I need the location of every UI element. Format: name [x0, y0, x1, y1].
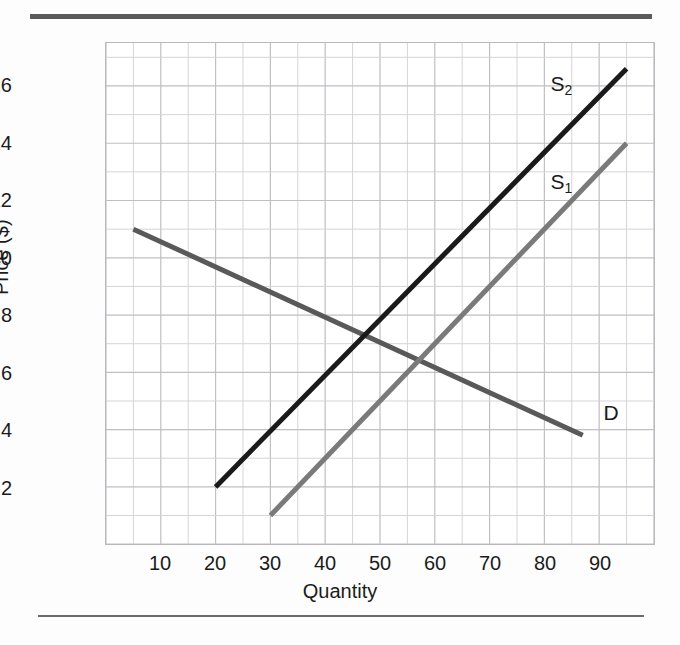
- series-label-subscript: 1: [565, 180, 573, 196]
- x-tick-label: 90: [589, 552, 611, 575]
- x-tick-label: 40: [314, 552, 336, 575]
- supply-demand-figure: 246810121416 102030405060708090 DS1S2 Pr…: [0, 0, 680, 645]
- y-tick-label: 4: [1, 419, 12, 442]
- data-layer: [106, 43, 654, 544]
- y-tick-label: 2: [1, 476, 12, 499]
- x-tick-label: 10: [149, 552, 171, 575]
- series-label-s2: S2: [551, 72, 573, 98]
- series-label-subscript: 2: [565, 82, 573, 98]
- x-tick-label: 60: [424, 552, 446, 575]
- x-tick-label: 30: [259, 552, 281, 575]
- top-horizontal-rule: [30, 14, 652, 19]
- y-tick-label: 6: [1, 361, 12, 384]
- x-tick-label: 20: [204, 552, 226, 575]
- x-tick-label: 80: [534, 552, 556, 575]
- series-label-d: D: [603, 401, 618, 425]
- x-tick-label: 50: [369, 552, 391, 575]
- series-label-s1: S1: [551, 170, 573, 196]
- y-tick-label: 16: [0, 74, 12, 97]
- y-tick-label: 8: [1, 304, 12, 327]
- series-line-s1: [270, 143, 626, 515]
- x-tick-label: 70: [479, 552, 501, 575]
- x-axis-title: Quantity: [0, 580, 680, 603]
- series-line-s2: [216, 69, 627, 487]
- y-tick-label: 14: [0, 131, 12, 154]
- y-tick-label: 12: [0, 189, 12, 212]
- plot-area: [105, 42, 655, 545]
- y-axis-title: Price ($): [0, 219, 13, 295]
- bottom-horizontal-rule: [38, 615, 644, 617]
